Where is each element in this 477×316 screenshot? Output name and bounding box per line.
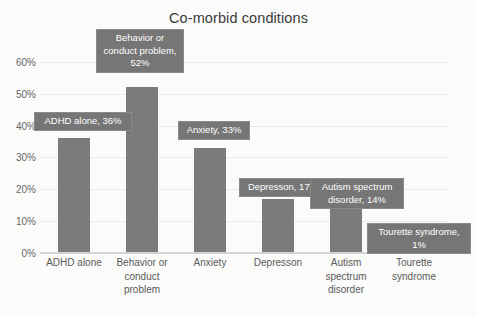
bar-adhd-alone[interactable] [58, 138, 90, 253]
x-axis: ADHD aloneBehavior orconductproblemAnxie… [40, 256, 448, 314]
x-axis-tick-line: Autism [312, 256, 380, 270]
x-axis-tick-line: Behavior or [108, 256, 176, 270]
y-axis-tick-label: 20% [4, 184, 36, 195]
x-axis-tick-line: problem [108, 283, 176, 297]
data-label-behavior-or-conduct-problem[interactable]: Behavior or conduct problem, 52% [96, 29, 184, 73]
bar-slot [176, 46, 244, 253]
x-axis-tick-label: Depresson [244, 256, 312, 270]
x-axis-tick-line: syndrome [380, 270, 448, 284]
y-axis-tick-label: 40% [4, 120, 36, 131]
data-label-tourette-syndrome[interactable]: Tourette syndrome, 1% [367, 223, 471, 254]
x-axis-tick-label: Tourettesyndrome [380, 256, 448, 283]
bar-slot [40, 46, 108, 253]
y-axis-tick-label: 50% [4, 88, 36, 99]
x-axis-tick-label: ADHD alone [40, 256, 108, 270]
chart-title: Co-morbid conditions [0, 10, 477, 26]
x-axis-tick-line: Anxiety [176, 256, 244, 270]
x-axis-tick-line: conduct [108, 270, 176, 284]
y-axis-tick-label: 0% [4, 248, 36, 259]
data-label-adhd-alone[interactable]: ADHD alone, 36% [34, 112, 132, 131]
bar-anxiety[interactable] [194, 148, 226, 253]
bar-slot [244, 46, 312, 253]
y-axis: 0%10%20%30%40%50%60% [0, 46, 36, 253]
plot-area [40, 46, 448, 253]
bar-depresson[interactable] [262, 199, 294, 253]
data-label-autism-spectrum-disorder[interactable]: Autism spectrum disorder, 14% [310, 178, 404, 209]
x-axis-tick-line: Tourette [380, 256, 448, 270]
data-label-anxiety[interactable]: Anxiety, 33% [178, 121, 250, 140]
bar-slot [312, 46, 380, 253]
bar-slot [380, 46, 448, 253]
x-axis-tick-line: Depresson [244, 256, 312, 270]
y-axis-tick-label: 10% [4, 216, 36, 227]
x-axis-tick-label: Anxiety [176, 256, 244, 270]
x-axis-tick-line: spectrum [312, 270, 380, 284]
bar-slot [108, 46, 176, 253]
y-axis-tick-label: 30% [4, 152, 36, 163]
bar-autism-spectrum-disorder[interactable] [330, 208, 362, 253]
x-axis-tick-line: disorder [312, 283, 380, 297]
x-axis-tick-line: ADHD alone [40, 256, 108, 270]
y-axis-tick-label: 60% [4, 56, 36, 67]
x-axis-tick-label: Behavior orconductproblem [108, 256, 176, 297]
x-axis-tick-label: Autismspectrumdisorder [312, 256, 380, 297]
bar-chart: Co-morbid conditions 0%10%20%30%40%50%60… [0, 0, 477, 316]
